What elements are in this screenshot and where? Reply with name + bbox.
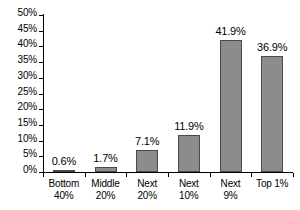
bar-value-label: 36.9%	[249, 42, 295, 53]
y-axis-tick-label: 45%	[18, 24, 37, 34]
y-axis-tick-label: 40%	[18, 39, 37, 49]
y-axis-tick-label: 20%	[18, 102, 37, 112]
x-axis-tick-mark	[168, 173, 169, 177]
x-axis-tick-mark	[210, 173, 211, 177]
bar	[53, 170, 75, 172]
y-axis-tick-label: 15%	[18, 118, 37, 128]
bar-value-label: 1.7%	[83, 153, 129, 164]
y-axis-tick-label: 0%	[23, 165, 37, 175]
bar	[178, 135, 200, 172]
bar	[220, 40, 242, 172]
x-axis-category-label: Top 1%	[245, 178, 299, 190]
bar-value-label: 41.9%	[208, 26, 254, 37]
y-axis-tick-label: 10%	[18, 134, 37, 144]
x-axis-tick-mark	[43, 173, 44, 177]
y-axis-tick-label: 5%	[23, 149, 37, 159]
y-axis-tick-label: 50%	[18, 8, 37, 18]
bar	[136, 150, 158, 172]
x-axis-tick-mark	[126, 173, 127, 177]
y-axis-tick-label: 35%	[18, 55, 37, 65]
x-axis-tick-mark	[251, 173, 252, 177]
x-axis-tick-mark	[85, 173, 86, 177]
bar-value-label: 7.1%	[124, 136, 170, 147]
bar-value-label: 11.9%	[166, 121, 212, 132]
bar-chart: 50%45%40%35%30%25%20%15%10%5%0% 0.6%1.7%…	[0, 0, 300, 210]
bar	[261, 56, 283, 172]
y-axis-tick-label: 25%	[18, 87, 37, 97]
category-label-line2: 9%	[204, 190, 258, 202]
category-label-line1: Top 1%	[245, 178, 299, 190]
plot-area: 0.6%1.7%7.1%11.9%41.9%36.9%	[43, 15, 293, 172]
bar	[95, 167, 117, 172]
bar-value-label: 0.6%	[41, 156, 87, 167]
x-axis-tick-mark	[293, 173, 294, 177]
y-axis-tick-label: 30%	[18, 71, 37, 81]
